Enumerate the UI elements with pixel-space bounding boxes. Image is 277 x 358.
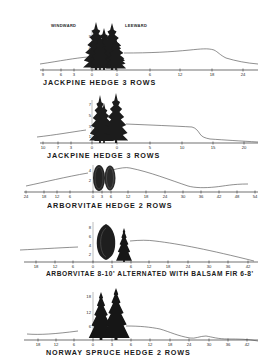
panel-arborvitae xyxy=(24,165,258,194)
y-tick-label: 6 xyxy=(89,324,91,329)
y-tick-label: 6 xyxy=(89,234,91,239)
x-tick-label: 6 xyxy=(149,72,151,77)
x-tick-label: 0 xyxy=(92,264,94,269)
y-tick-label: 2 xyxy=(89,252,91,257)
x-tick-label: 30 xyxy=(207,342,212,347)
x-tick-label: 20 xyxy=(242,145,247,150)
panel-jackpine-2 xyxy=(37,93,258,145)
y-tick-label: 2 xyxy=(89,178,91,183)
x-tick-label: 9 xyxy=(42,72,44,77)
x-tick-label: 42 xyxy=(246,264,251,269)
x-tick-label: 6 xyxy=(72,264,74,269)
x-tick-label: 12 xyxy=(53,264,58,269)
hedge-wind-profile-figure: WINDWARD LEEWARD 9 6 9 6 3 0 0 6 12 18 2… xyxy=(0,0,277,358)
x-tick-label: 3 xyxy=(73,72,75,77)
x-tick-label: 18 xyxy=(166,264,171,269)
x-tick-label: 24 xyxy=(187,342,192,347)
panel-caption: ARBORVITAE HEDGE 2 ROWS xyxy=(47,201,172,210)
y-tick-label: 9 xyxy=(89,34,91,39)
x-tick-label: 6 xyxy=(69,194,71,199)
x-tick-label: 3 xyxy=(111,342,113,347)
x-tick-label: 18 xyxy=(144,194,149,199)
x-tick-label: 12 xyxy=(126,194,131,199)
x-tick-label: 24 xyxy=(241,72,246,77)
x-tick-label: 36 xyxy=(199,194,204,199)
y-tick-label: 1 xyxy=(89,134,91,139)
panel-norway-spruce xyxy=(24,288,258,342)
panel-caption: JACKPINE HEDGE 3 ROWS xyxy=(47,151,160,160)
windward-label: WINDWARD xyxy=(51,23,76,28)
x-tick-label: 48 xyxy=(235,194,240,199)
x-tick-label: 36 xyxy=(226,264,231,269)
x-tick-label: 6 xyxy=(130,264,132,269)
x-tick-label: 24 xyxy=(24,194,29,199)
panel-arborvitae-balsam xyxy=(20,222,258,264)
x-tick-label: 10 xyxy=(180,145,185,150)
x-tick-label: 10 xyxy=(41,145,46,150)
x-tick-label: 18 xyxy=(168,342,173,347)
x-tick-label: 12 xyxy=(54,342,59,347)
y-tick-label: 3 xyxy=(89,124,91,129)
panel-jackpine-1 xyxy=(40,22,258,72)
x-tick-label: 24 xyxy=(163,194,168,199)
x-tick-label: 7 xyxy=(57,145,59,150)
x-tick-label: 30 xyxy=(181,194,186,199)
y-tick-label: 12 xyxy=(86,310,91,315)
x-tick-label: 12 xyxy=(55,194,60,199)
x-tick-label: 0 xyxy=(92,342,94,347)
x-tick-label: 36 xyxy=(226,342,231,347)
x-tick-label: 6 xyxy=(73,342,75,347)
y-tick-label: 6 xyxy=(89,46,91,51)
figure-drawing xyxy=(0,0,277,358)
x-tick-label: 18 xyxy=(36,342,41,347)
x-tick-label: 12 xyxy=(147,264,152,269)
x-tick-label: 0 xyxy=(116,145,118,150)
x-tick-label: 3 xyxy=(101,194,103,199)
x-tick-label: 3 xyxy=(70,145,72,150)
y-tick-label: 4 xyxy=(89,168,91,173)
x-tick-label: 0 xyxy=(116,72,118,77)
y-tick-label: 8 xyxy=(89,225,91,230)
x-tick-label: 12 xyxy=(178,72,183,77)
x-tick-label: 15 xyxy=(211,145,216,150)
y-tick-label: 4 xyxy=(89,243,91,248)
x-tick-label: 24 xyxy=(186,264,191,269)
x-tick-label: 18 xyxy=(42,194,47,199)
x-tick-label: 6 xyxy=(60,72,62,77)
x-tick-label: 0 xyxy=(91,72,93,77)
y-tick-label: 18 xyxy=(86,294,91,299)
x-tick-label: 18 xyxy=(210,72,215,77)
x-tick-label: 0 xyxy=(92,194,94,199)
x-tick-label: 6 xyxy=(130,342,132,347)
y-tick-label: 7 xyxy=(89,102,91,107)
x-tick-label: 30 xyxy=(207,264,212,269)
panel-caption: NORWAY SPRUCE HEDGE 2 ROWS xyxy=(46,348,191,357)
x-tick-label: 3 xyxy=(111,264,113,269)
x-tick-label: 12 xyxy=(148,342,153,347)
y-tick-label: 5 xyxy=(89,113,91,118)
x-tick-label: 42 xyxy=(217,194,222,199)
panel-caption: JACKPINE HEDGE 3 ROWS xyxy=(43,78,156,87)
x-tick-label: 6 xyxy=(110,194,112,199)
panel-caption: ARBORVITAE 8-10' ALTERNATED WITH BALSAM … xyxy=(46,270,254,277)
x-tick-label: 5 xyxy=(149,145,151,150)
x-tick-label: 18 xyxy=(34,264,39,269)
leeward-label: LEEWARD xyxy=(125,23,147,28)
x-tick-label: 54 xyxy=(253,194,258,199)
x-tick-label: 0 xyxy=(91,145,93,150)
x-tick-label: 42 xyxy=(245,342,250,347)
